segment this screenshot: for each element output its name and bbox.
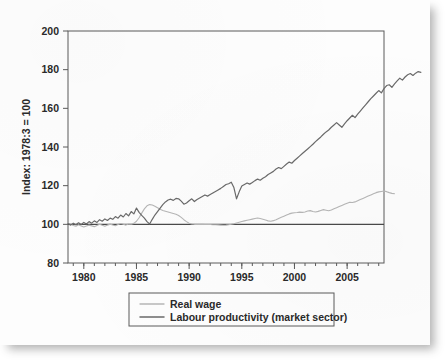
y-axis-title: Index: 1978:3 = 100: [20, 99, 32, 195]
y-axis-tick-labels: 80100120140160180200: [41, 25, 59, 269]
x-tick-label: 2000: [283, 271, 307, 283]
y-tick-label: 160: [41, 102, 59, 114]
chart-page: 80100120140160180200 1980198519901995200…: [0, 0, 447, 364]
y-tick-label: 200: [41, 25, 59, 37]
x-tick-label: 2005: [335, 271, 359, 283]
x-tick-label: 1995: [230, 271, 254, 283]
x-tick-label: 1980: [72, 271, 96, 283]
plot-frame: [68, 31, 384, 263]
y-tick-label: 80: [47, 257, 59, 269]
series-line-real-wage: [68, 191, 395, 227]
legend-label-real-wage: Real wage: [170, 298, 222, 310]
x-tick-label: 1985: [125, 271, 149, 283]
y-tick-label: 180: [41, 63, 59, 75]
y-tick-label: 140: [41, 141, 59, 153]
chart-legend: Real wage Labour productivity (market se…: [129, 293, 347, 326]
series-group: [68, 72, 421, 227]
chart-sheet: 80100120140160180200 1980198519901995200…: [0, 0, 430, 345]
x-axis-tick-labels: 198019851990199520002005: [72, 271, 359, 283]
x-axis-ticks: [84, 263, 347, 269]
legend-label-labour-productivity: Labour productivity (market sector): [170, 311, 347, 323]
y-tick-label: 120: [41, 179, 59, 191]
series-line-labour-productivity-market-sector: [68, 72, 421, 226]
y-axis-ticks: [63, 31, 68, 263]
line-chart: 80100120140160180200 1980198519901995200…: [0, 0, 430, 345]
y-tick-label: 100: [41, 218, 59, 230]
x-tick-label: 1990: [177, 271, 201, 283]
